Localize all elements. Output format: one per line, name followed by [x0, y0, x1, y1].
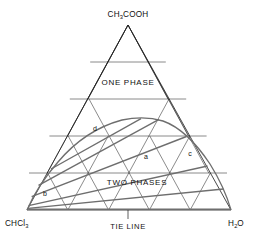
label-h2o: H2O — [228, 219, 244, 229]
point-label-c: c — [188, 150, 192, 157]
label-ch3cooh: CH3COOH — [108, 10, 149, 20]
vertex-label-bottom-left: CHCl3 — [5, 219, 29, 229]
binodal-curve-group — [27, 118, 231, 210]
vertex-label-bottom-right: H2O — [228, 219, 244, 229]
point-label-d: d — [93, 125, 97, 132]
region-label-one-phase: ONE PHASE — [102, 78, 155, 87]
vertex-label-top: CH3COOH — [108, 10, 149, 20]
binodal-curve — [27, 118, 231, 210]
point-label-a: a — [144, 153, 148, 160]
label-chcl3: CHCl3 — [5, 219, 29, 229]
ternary-phase-diagram: CH3COOH CHCl3 H2O ONE PHASE TWO PHASES T… — [0, 0, 265, 235]
region-label-two-phases: TWO PHASES — [107, 178, 167, 187]
point-label-b: b — [43, 190, 47, 197]
tie-lines-group — [28, 119, 230, 210]
phase-diagram-canvas: CH3COOH CHCl3 H2O ONE PHASE TWO PHASES T… — [0, 0, 265, 235]
tie-line-caption: TIE LINE — [110, 222, 146, 231]
